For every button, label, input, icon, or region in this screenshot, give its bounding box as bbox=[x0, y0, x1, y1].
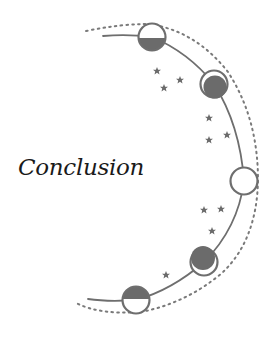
moon-half-lower-icon bbox=[138, 24, 166, 53]
slide-title: Conclusion bbox=[18, 154, 144, 180]
star-icon bbox=[200, 206, 208, 214]
star-icon bbox=[176, 76, 184, 84]
star-icon bbox=[205, 136, 213, 144]
moon-half-upper-icon bbox=[122, 285, 150, 314]
star-cluster bbox=[153, 67, 231, 279]
star-icon bbox=[153, 67, 161, 75]
star-icon bbox=[205, 114, 213, 122]
star-icon bbox=[208, 227, 216, 235]
moon-new-empty-icon bbox=[231, 168, 258, 195]
moon-crescent-filled-icon bbox=[201, 71, 228, 99]
star-icon bbox=[223, 131, 231, 139]
conclusion-slide: Conclusion bbox=[0, 0, 276, 344]
star-icon bbox=[217, 205, 225, 213]
star-icon bbox=[160, 84, 168, 92]
star-icon bbox=[162, 271, 170, 279]
